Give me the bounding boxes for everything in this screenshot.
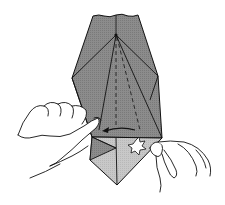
origami-diagram (0, 0, 225, 205)
paper-outer-body (72, 14, 162, 138)
right-hand (150, 141, 211, 192)
paper-model (72, 14, 162, 185)
apex-point (114, 33, 117, 36)
